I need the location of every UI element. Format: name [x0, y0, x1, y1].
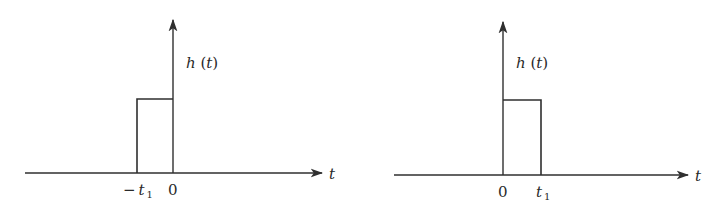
- left-plot: h (t) t −t1 0: [25, 20, 336, 200]
- right-x-label: t: [695, 167, 702, 185]
- left-pulse: [137, 99, 173, 173]
- right-tick-t1: t1: [536, 183, 550, 202]
- right-plot: h (t) t 0 t1: [394, 22, 702, 202]
- right-y-label: h (t): [516, 54, 548, 72]
- left-tick-zero: 0: [168, 181, 178, 199]
- right-tick-zero: 0: [498, 183, 508, 201]
- left-y-label: h (t): [186, 54, 218, 72]
- left-x-label: t: [329, 165, 336, 183]
- left-tick-neg-t1: −t1: [123, 181, 153, 200]
- right-pulse: [503, 100, 541, 175]
- diagram-canvas: h (t) t −t1 0 h (t) t 0 t1: [0, 0, 716, 215]
